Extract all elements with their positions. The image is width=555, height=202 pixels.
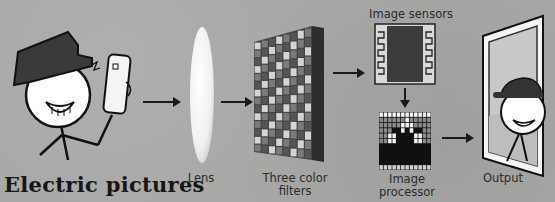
page-title: Electric pictures [4,172,205,197]
arrow-filters-to-sensors [333,72,363,74]
processor-label: Image processor [361,173,453,199]
color-filter-grid-illustration [254,22,334,162]
image-sensor-chip-icon [375,24,435,84]
arrow-processor-to-output [442,137,472,139]
lens-illustration [187,25,217,165]
arrow-sensors-to-processor [404,88,406,106]
filters-label-line2: filters [254,185,336,198]
image-processor-grid-icon [379,112,431,170]
output-label: Output [478,172,528,185]
filters-label: Three color filters [254,172,336,198]
stick-figure-selfie-illustration [0,10,140,170]
output-photo-frame-illustration [483,16,548,176]
sensors-label: Image sensors [366,8,456,21]
arrow-figure-to-lens [143,101,179,103]
arrow-lens-to-filters [221,101,251,103]
